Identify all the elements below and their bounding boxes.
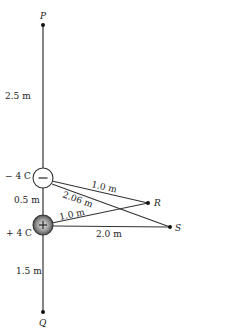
dist-pos-R: 1.0 m [58,207,86,222]
label-positive-charge: + 4 C [6,228,32,238]
point-P-dot [41,23,45,27]
label-R: R [153,198,161,208]
dist-pos-S: 2.0 m [96,229,122,239]
label-negative-charge: − 4 C [5,171,31,181]
point-Q-dot [41,310,45,314]
line-pos-to-S [53,226,170,227]
dist-P-neg: 2.5 m [5,91,31,101]
label-Q: Q [39,318,47,328]
point-R-dot [146,201,150,205]
dist-neg-S: 2.06 m [61,189,94,209]
label-P: P [39,11,47,21]
label-S: S [175,223,181,233]
diagram-canvas: P Q R S − 4 C + 4 C 2.5 m 0.5 m 1.5 m 1.… [0,0,228,330]
charge-diagram: P Q R S − 4 C + 4 C 2.5 m 0.5 m 1.5 m 1.… [0,0,228,330]
dist-pos-Q: 1.5 m [16,266,42,276]
dist-neg-pos: 0.5 m [14,195,40,205]
point-S-dot [168,225,172,229]
